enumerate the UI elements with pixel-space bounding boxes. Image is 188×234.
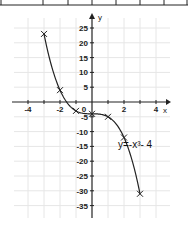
cubic-function-graph: -4-2024252015105-5-10-15-20-25-30-35 y=-… — [0, 0, 188, 234]
y-tick-label: 15 — [79, 54, 88, 63]
y-tick-label: 25 — [79, 24, 88, 33]
x-tick-label: -2 — [56, 105, 64, 114]
x-axis-label: x — [163, 106, 167, 115]
x-tick-label: 2 — [122, 105, 127, 114]
y-axis-arrow-icon — [89, 13, 95, 19]
y-tick-label: -35 — [76, 202, 88, 211]
y-tick-label: -15 — [76, 142, 88, 151]
x-tick-label: -4 — [24, 105, 32, 114]
y-tick-label: 20 — [79, 39, 88, 48]
y-tick-label: 10 — [79, 68, 88, 77]
y-tick-label: -25 — [76, 172, 88, 181]
y-axis-label: y — [98, 13, 102, 22]
equation-label: y=-x³- 4 — [118, 139, 153, 150]
y-tick-label: 5 — [84, 83, 89, 92]
y-tick-label: -10 — [76, 128, 88, 137]
x-axis-arrow-icon — [166, 99, 171, 105]
y-tick-label: -30 — [76, 187, 88, 196]
x-tick-label: 4 — [154, 105, 159, 114]
y-tick-label: -20 — [76, 157, 88, 166]
axes — [12, 13, 171, 218]
